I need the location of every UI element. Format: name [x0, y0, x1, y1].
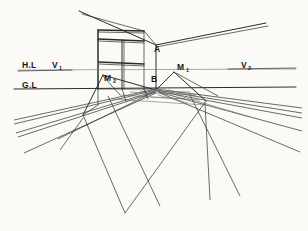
perspective-drawing-canvas: H.L V 1 V 2 G.L A B M 1 M 2	[0, 0, 308, 231]
label-measuring-point-1: M	[177, 62, 184, 72]
tile-line-curve-1	[168, 90, 196, 96]
label-horizon-line: H.L	[22, 60, 37, 70]
converging-ray-vertical-right	[205, 103, 210, 200]
floor-ray-right-2	[156, 90, 302, 113]
window-transom-bar	[98, 39, 144, 41]
label-corner-a: A	[154, 44, 160, 54]
floor-ray-left-3	[16, 91, 156, 133]
window-frame-head	[98, 30, 144, 31]
label-layer: H.L V 1 V 2 G.L A B M 1 M 2	[22, 44, 251, 90]
label-corner-b: B	[151, 74, 157, 84]
label-vanishing-point-2: V	[241, 60, 247, 70]
converging-ray-outer-left	[60, 118, 83, 150]
label-vanishing-point-1: V	[52, 60, 58, 70]
label-ground-line: G.L	[22, 80, 37, 90]
floor-ray-left-6	[58, 92, 154, 139]
label-measuring-point-2: M	[104, 73, 111, 83]
floor-ray-right-faint	[170, 93, 250, 117]
converging-ray-left	[83, 115, 125, 213]
measuring-line-m1-to-b	[157, 72, 174, 89]
converging-ray-center-right	[190, 95, 240, 196]
floor-ray-right-3	[156, 91, 302, 118]
floor-ray-right-4	[158, 92, 302, 131]
ceiling-edge-right-inner	[156, 26, 268, 47]
label-measuring-point-2-subscript: 2	[113, 78, 116, 84]
measuring-line-m2-down-left	[83, 75, 103, 115]
wall-top-connector	[144, 31, 156, 45]
window-frame-head-shadow	[98, 32, 144, 33]
label-vanishing-point-2-subscript: 2	[248, 65, 251, 71]
label-vanishing-point-1-subscript: 1	[59, 65, 62, 71]
ceiling-edge-right	[156, 23, 266, 45]
ceiling-edge-left-inner	[82, 14, 144, 31]
label-measuring-point-1-subscript: 1	[186, 67, 189, 73]
floor-rays-left	[14, 89, 156, 153]
converging-ray-center-left	[108, 96, 160, 206]
perspective-sketch-page: H.L V 1 V 2 G.L A B M 1 M 2	[0, 0, 308, 231]
